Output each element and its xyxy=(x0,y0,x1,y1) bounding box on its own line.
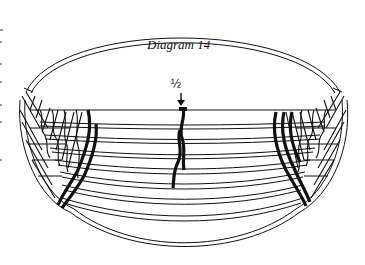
half-marker-label: ½ xyxy=(171,77,180,91)
margin-marks xyxy=(0,30,3,160)
left-ear-weave xyxy=(20,92,96,208)
down-arrow-icon xyxy=(177,93,185,106)
center-splice xyxy=(173,107,187,188)
diagram-title: Diagram 14 xyxy=(147,37,210,53)
